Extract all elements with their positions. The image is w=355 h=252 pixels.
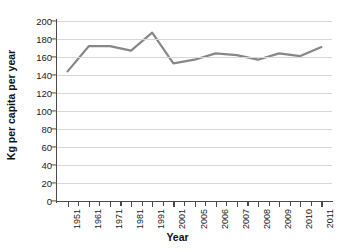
y-tick-label: 0 [18,196,52,207]
x-tick-label: 2011 [325,209,335,228]
y-tick-label: 140 [18,70,52,81]
x-tick-label: 2001 [177,209,187,229]
x-tick-label: 2009 [283,209,293,229]
x-tick-mark-minor [120,202,121,206]
x-tick-mark [68,202,69,207]
gridline [57,57,332,58]
x-tick-label: 1991 [156,209,166,229]
x-tick-mark [110,202,111,207]
y-tick-mark [51,74,56,75]
y-tick-mark [51,164,56,165]
x-tick-label: 2007 [241,209,251,229]
x-tick-mark-minor [269,202,270,206]
x-tick-mark [173,202,174,207]
plot-area [57,21,332,201]
y-tick-label: 60 [18,142,52,153]
y-tick-mark [51,92,56,93]
x-tick-mark [258,202,259,207]
x-tick-mark-minor [78,202,79,206]
line-chart: Kg per capita per year 20018016014012010… [0,0,355,252]
gridline [57,21,332,22]
x-tick-mark-minor [142,202,143,206]
y-tick-label: 20 [18,178,52,189]
x-tick-label: 1951 [72,209,82,229]
x-tick-mark [216,202,217,207]
y-tick-mark [51,128,56,129]
y-tick-label: 80 [18,124,52,135]
x-tick-mark-minor [99,202,100,206]
x-tick-mark-minor [163,202,164,206]
y-tick-mark [51,110,56,111]
y-tick-label: 100 [18,106,52,117]
y-axis-title-text: Kg per capita per year [5,50,17,160]
x-tick-mark [279,202,280,207]
x-axis-title: Year [0,231,355,243]
gridline [57,165,332,166]
gridline [57,111,332,112]
x-tick-label: 2008 [262,209,272,229]
x-tick-label: 2005 [199,209,209,229]
x-tick-mark-minor [290,202,291,206]
x-tick-mark-minor [226,202,227,206]
y-tick-mark [51,56,56,57]
x-tick-mark [237,202,238,207]
x-tick-mark-minor [247,202,248,206]
y-axis-tick-labels: 200180160140120100806040200 [18,0,52,252]
x-tick-mark-minor [184,202,185,206]
x-tick-label: 2010 [304,209,314,229]
x-tick-mark-minor [205,202,206,206]
x-tick-label: 1961 [93,209,103,229]
y-tick-mark [51,146,56,147]
gridline [57,75,332,76]
x-tick-mark [195,202,196,207]
y-tick-label: 160 [18,52,52,63]
gridline [57,147,332,148]
x-tick-mark [89,202,90,207]
y-tick-mark [51,38,56,39]
y-tick-label: 200 [18,16,52,27]
gridline [57,129,332,130]
x-tick-label: 2006 [220,209,230,229]
x-tick-label: 1971 [114,209,124,229]
y-tick-mark [51,200,56,201]
gridline [57,39,332,40]
x-tick-mark [152,202,153,207]
y-tick-mark [51,182,56,183]
x-tick-label: 1981 [135,209,145,229]
gridline [57,183,332,184]
y-tick-label: 120 [18,88,52,99]
y-tick-label: 180 [18,34,52,45]
x-tick-mark [131,202,132,207]
x-tick-mark [300,202,301,207]
y-tick-label: 40 [18,160,52,171]
y-tick-mark [51,20,56,21]
gridline [57,93,332,94]
x-tick-mark-minor [311,202,312,206]
x-tick-mark [321,202,322,207]
